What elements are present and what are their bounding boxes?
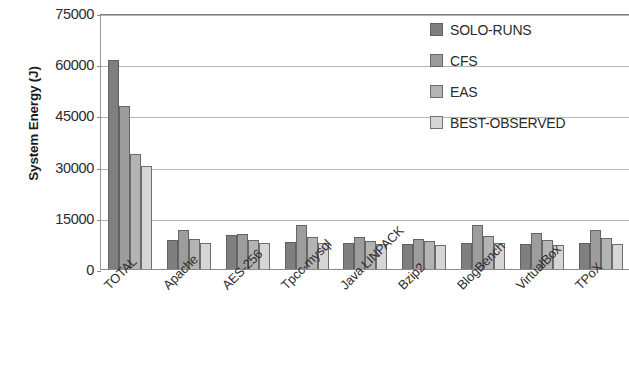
- legend-item: EAS: [430, 76, 629, 107]
- bar: [601, 238, 612, 270]
- chart-legend: SOLO-RUNSCFSEASBEST-OBSERVED: [430, 14, 629, 138]
- bar: [141, 166, 152, 270]
- legend-item: BEST-OBSERVED: [430, 107, 629, 138]
- legend-item: CFS: [430, 45, 629, 76]
- y-tick-label: 45000: [16, 108, 94, 124]
- bar: [424, 241, 435, 270]
- y-tick-label: 30000: [16, 160, 94, 176]
- bar-chart: System Energy (J) 0150003000045000600007…: [0, 0, 629, 389]
- legend-label: EAS: [450, 84, 477, 100]
- legend-swatch: [430, 116, 443, 129]
- bar: [119, 106, 130, 270]
- bar: [130, 154, 141, 270]
- bar: [108, 60, 119, 270]
- y-tick-label: 15000: [16, 211, 94, 227]
- y-tick-label: 60000: [16, 57, 94, 73]
- legend-label: CFS: [450, 53, 477, 69]
- legend-swatch: [430, 85, 443, 98]
- bar-group: [277, 14, 336, 270]
- x-axis-tick-labels: TOTALApacheAES-256Tpcc-mysqlJava LINPACK…: [0, 272, 629, 389]
- legend-label: SOLO-RUNS: [450, 22, 531, 38]
- legend-item: SOLO-RUNS: [430, 14, 629, 45]
- bar: [612, 244, 623, 270]
- y-tick-label: 75000: [16, 6, 94, 22]
- bar-group: [219, 14, 278, 270]
- legend-swatch: [430, 54, 443, 67]
- bar-group: [160, 14, 219, 270]
- bar: [200, 243, 211, 270]
- legend-swatch: [430, 23, 443, 36]
- bar: [435, 245, 446, 270]
- bar-group: [101, 14, 160, 270]
- legend-label: BEST-OBSERVED: [450, 115, 565, 131]
